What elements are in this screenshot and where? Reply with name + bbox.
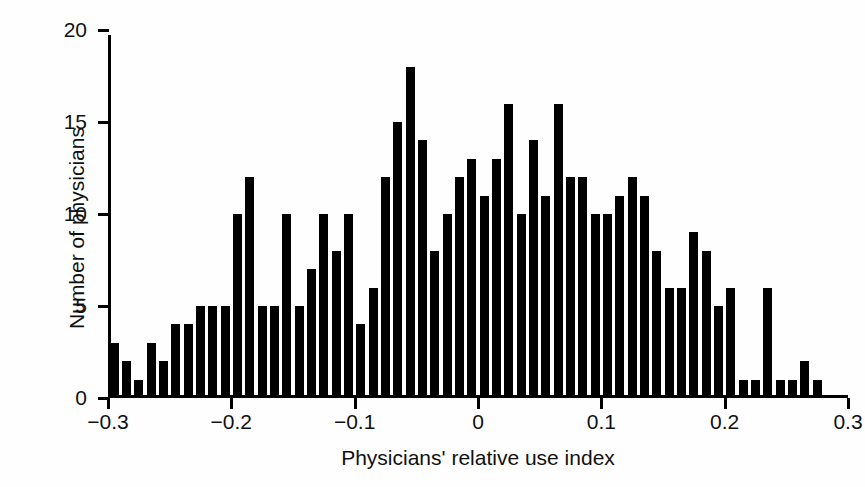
histogram-bar (689, 232, 698, 398)
x-tick-label-5: 0.2 (685, 410, 765, 434)
x-tick-mark-6 (847, 398, 850, 409)
histogram-bar (591, 214, 600, 398)
histogram-bar (554, 104, 563, 398)
x-tick-label-3: 0 (438, 410, 518, 434)
histogram-bar (208, 306, 217, 398)
histogram-bar (233, 214, 242, 398)
x-tick-label-1: −0.2 (191, 410, 271, 434)
y-tick-label: 15 (27, 111, 87, 132)
histogram-bar (319, 214, 328, 398)
histogram-bar (603, 214, 612, 398)
y-tick-label: 10 (27, 203, 87, 224)
histogram-bar (418, 140, 427, 398)
histogram-bar (529, 140, 538, 398)
x-tick-mark-0 (107, 398, 110, 409)
histogram-bar (677, 288, 686, 398)
histogram-bar (356, 324, 365, 398)
histogram-bar (258, 306, 267, 398)
histogram-bar (295, 306, 304, 398)
histogram-bar (307, 269, 316, 398)
histogram-bar (406, 67, 415, 398)
y-tick-label: 0 (27, 387, 87, 408)
histogram-bar (566, 177, 575, 398)
histogram-bar (196, 306, 205, 398)
plot-area (108, 30, 848, 398)
histogram-bar (541, 196, 550, 398)
histogram-bar (455, 177, 464, 398)
histogram-bar (800, 361, 809, 398)
histogram-figure: Number of physicians 05101520 −0.3−0.2−0… (0, 0, 865, 487)
histogram-bar (628, 177, 637, 398)
histogram-bar (714, 306, 723, 398)
histogram-bar (110, 343, 119, 398)
histogram-bar (122, 361, 131, 398)
histogram-bar (430, 251, 439, 398)
x-tick-mark-5 (724, 398, 727, 409)
x-axis-title: Physicians' relative use index (108, 446, 848, 470)
histogram-bar (147, 343, 156, 398)
y-tick-label: 5 (27, 295, 87, 316)
histogram-bar (726, 288, 735, 398)
x-tick-mark-1 (230, 398, 233, 409)
x-tick-mark-3 (477, 398, 480, 409)
histogram-bar (159, 361, 168, 398)
histogram-bar (369, 288, 378, 398)
histogram-bar (665, 288, 674, 398)
histogram-bar (615, 196, 624, 398)
x-tick-label-2: −0.1 (315, 410, 395, 434)
histogram-bar (282, 214, 291, 398)
histogram-bar (640, 196, 649, 398)
histogram-bar (221, 306, 230, 398)
histogram-bar (504, 104, 513, 398)
histogram-bar (702, 251, 711, 398)
histogram-bar (517, 214, 526, 398)
histogram-bar (245, 177, 254, 398)
histogram-bar (652, 251, 661, 398)
y-tick-label: 20 (27, 19, 87, 40)
histogram-bar (578, 177, 587, 398)
histogram-bar (763, 288, 772, 398)
scan-artifact-text (0, 0, 160, 12)
histogram-bar (332, 251, 341, 398)
histogram-bar (270, 306, 279, 398)
histogram-bar (344, 214, 353, 398)
x-tick-label-0: −0.3 (68, 410, 148, 434)
x-tick-mark-4 (600, 398, 603, 409)
x-tick-mark-2 (354, 398, 357, 409)
x-tick-label-4: 0.1 (561, 410, 641, 434)
histogram-bar (467, 159, 476, 398)
histogram-bar (171, 324, 180, 398)
x-tick-label-6: 0.3 (808, 410, 865, 434)
histogram-bar (480, 196, 489, 398)
histogram-bar (492, 159, 501, 398)
histogram-bar (393, 122, 402, 398)
histogram-bar (184, 324, 193, 398)
histogram-bar (443, 214, 452, 398)
histogram-bar (381, 177, 390, 398)
